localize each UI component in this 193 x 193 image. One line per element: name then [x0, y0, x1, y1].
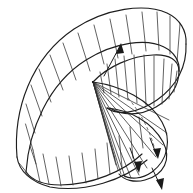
- ruled-surface-drawing: [0, 0, 193, 193]
- cuspidal-point: [92, 81, 94, 83]
- figure-canvas: [0, 0, 193, 193]
